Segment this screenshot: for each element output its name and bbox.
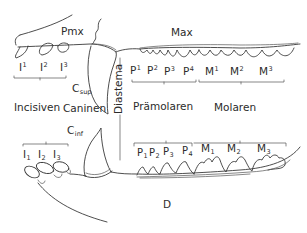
lower-tooth-label-p3: P3 xyxy=(163,147,174,159)
dentition-diagram: Pmx Max D Incisiven Caninen Prämolaren M… xyxy=(0,0,307,233)
lower-canine-label: Cinf xyxy=(67,125,83,138)
upper-tooth-label-p3: P3 xyxy=(164,66,175,77)
upper-molars xyxy=(199,48,294,57)
lower-incisor-2 xyxy=(35,160,55,176)
lower-tooth-label-p4: P4 xyxy=(182,146,193,158)
upper-incisor-2 xyxy=(39,43,53,55)
upper-tooth-label-p2: P2 xyxy=(147,65,158,76)
lower-tooth-label-m3: M3 xyxy=(257,143,271,156)
lower-canine xyxy=(84,128,111,176)
incisors-label: Incisiven xyxy=(14,102,60,113)
upper-tooth-label-m1: M1 xyxy=(205,66,219,77)
molars-label: Molaren xyxy=(214,102,256,113)
upper-incisor-3 xyxy=(58,43,69,52)
premolars-label: Prämolaren xyxy=(133,101,193,112)
diastema-label: Diastema xyxy=(112,64,124,114)
upper-tooth-label-i2: I2 xyxy=(40,62,48,73)
jaw-drawing xyxy=(0,0,307,233)
upper-molar-bracket xyxy=(199,80,284,84)
upper-incisor-1 xyxy=(15,46,28,58)
lower-tooth-label-i3: I3 xyxy=(53,149,61,162)
upper-incisor-bracket xyxy=(14,76,66,80)
upper-canine-label: Csup xyxy=(72,83,91,96)
canines-label: Caninen xyxy=(63,103,106,114)
premaxilla-suture xyxy=(92,19,101,44)
lower-incisor-3 xyxy=(52,160,70,174)
lower-tooth-label-m1: M1 xyxy=(201,143,215,156)
dentary-label: D xyxy=(163,199,171,210)
upper-tooth-label-m3: M3 xyxy=(259,66,273,77)
lower-incisor-bracket xyxy=(23,142,68,146)
upper-tooth-label-p1: P1 xyxy=(130,65,141,76)
dentary-outline xyxy=(38,183,107,222)
lower-tooth-label-i2: I2 xyxy=(38,149,46,162)
maxilla-label: Max xyxy=(171,27,193,38)
lower-tooth-label-m2: M2 xyxy=(227,143,241,156)
upper-tooth-label-i3: I3 xyxy=(60,62,68,73)
upper-tooth-label-p4: P4 xyxy=(183,66,194,77)
upper-tooth-label-i1: I1 xyxy=(19,62,27,73)
lower-tooth-label-p2: P2 xyxy=(149,148,160,160)
premaxilla-label: Pmx xyxy=(61,26,84,37)
upper-premolars xyxy=(140,49,199,57)
upper-premolar-bracket xyxy=(132,80,196,84)
lower-tooth-label-i1: I1 xyxy=(23,149,31,162)
lower-tooth-label-p1: P1 xyxy=(137,148,148,160)
upper-tooth-label-m2: M2 xyxy=(230,66,244,77)
lower-incisor-1 xyxy=(23,164,42,181)
